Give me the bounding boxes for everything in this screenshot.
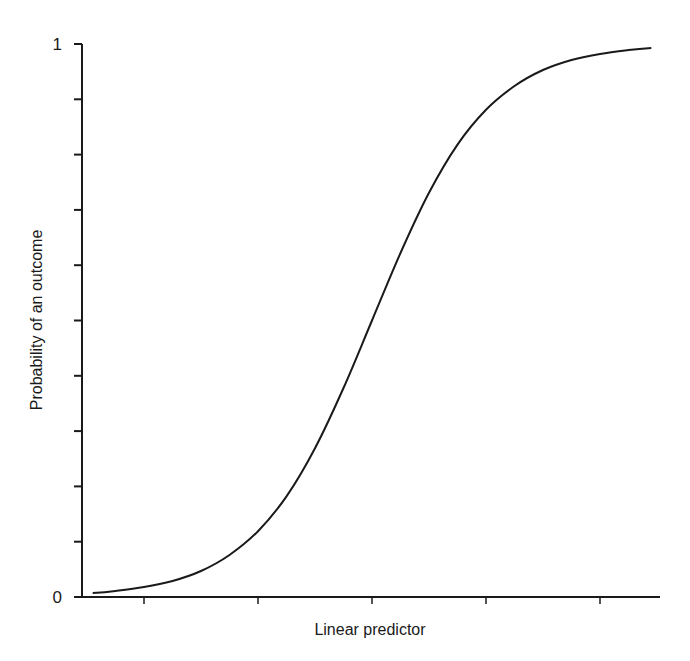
x-axis [74, 597, 660, 604]
logistic-curve [93, 48, 652, 593]
logistic-chart: 01 Linear predictor Probability of an ou… [0, 0, 690, 661]
y-axis-title: Probability of an outcome [28, 230, 45, 411]
x-axis-title: Linear predictor [314, 621, 426, 638]
y-tick-label: 0 [53, 588, 62, 607]
y-tick-label: 1 [53, 35, 62, 54]
y-axis: 01 [53, 35, 82, 607]
